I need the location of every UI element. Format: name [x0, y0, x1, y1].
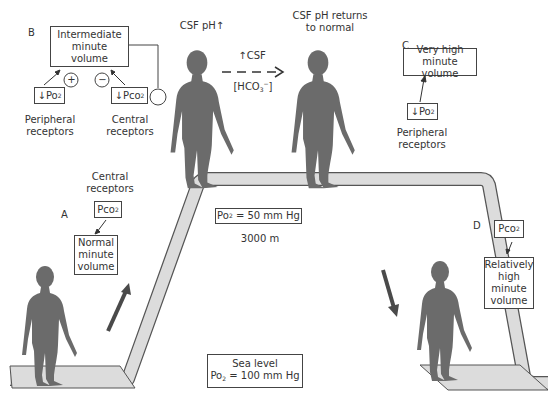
low-po2-box-c: ↓Po2: [407, 103, 438, 120]
box-line: Normal: [78, 237, 114, 249]
title-line: to normal: [280, 22, 380, 34]
hco3-text: [HCO: [233, 81, 259, 92]
b-arrows: [44, 70, 125, 85]
altitude-po2-box: Po2 = 50 mm Hg: [215, 208, 302, 224]
bracket: ]: [269, 81, 273, 92]
subscript: 3: [260, 86, 264, 93]
title-line: CSF pH returns: [280, 10, 380, 22]
subscript: 2: [115, 204, 119, 216]
box-line: minute: [72, 41, 107, 53]
peripheral-receptors-label-b: Peripheral receptors: [18, 114, 82, 138]
po2-label: Po: [210, 370, 222, 381]
label-line: receptors: [80, 183, 140, 195]
subscript: 2: [431, 106, 435, 118]
csf-ph-normal-title: CSF pH returns to normal: [280, 10, 380, 34]
label-line: Central: [80, 171, 140, 183]
central-receptors-label-a: Central receptors: [80, 171, 140, 195]
stimulus-text: Pco: [498, 223, 516, 235]
plus-sign: +: [67, 74, 76, 86]
box-line: volume: [490, 295, 527, 307]
po2-label: Po: [217, 210, 229, 222]
csf-up-label: ↑CSF: [230, 50, 274, 62]
pco2-box-a: Pco2: [94, 201, 122, 218]
intermediate-minute-volume-box: Intermediate minute volume: [50, 26, 129, 67]
subscript: 2: [141, 90, 145, 102]
relatively-high-minute-volume-box: Relatively high minute volume: [484, 257, 534, 309]
label-line: Peripheral: [390, 127, 454, 139]
box-line: minute: [78, 249, 113, 261]
pco2-box-d: Pco2: [494, 220, 524, 238]
box-line: Very high: [416, 44, 463, 56]
descent-arrow: [383, 270, 399, 317]
label-line: receptors: [390, 139, 454, 151]
box-line: Intermediate: [57, 29, 122, 41]
box-line: volume: [71, 53, 108, 65]
central-receptors-label-b: Central receptors: [100, 114, 160, 138]
csf-ph-up-title: CSF pH↑: [172, 20, 232, 32]
subscript: 2: [516, 223, 520, 235]
label-line: Central: [100, 114, 160, 126]
stimulus-text: ↓Po: [38, 90, 58, 102]
label-line: receptors: [18, 126, 82, 138]
box-line: Relatively: [484, 259, 533, 271]
po2-value: = 50 mm Hg: [233, 210, 300, 222]
stimulus-text: Pco: [97, 204, 115, 216]
peripheral-receptors-label-c: Peripheral receptors: [390, 127, 454, 151]
minus-sign: −: [98, 74, 107, 86]
sea-level-title: Sea level: [232, 358, 278, 370]
sea-level-box: Sea level Po2 = 100 mm Hg: [207, 354, 303, 388]
low-po2-box-b: ↓Po2: [34, 87, 65, 104]
person-c: [292, 50, 355, 188]
label-line: Peripheral: [18, 114, 82, 126]
stimulus-text: ↓Po: [411, 106, 431, 118]
po2-value: = 100 mm Hg: [226, 370, 300, 381]
label-line: receptors: [100, 126, 160, 138]
box-line: high: [498, 271, 520, 283]
box-line: minute volume: [404, 56, 476, 80]
panel-letter-b: B: [28, 27, 35, 38]
hco3-label: [HCO3−]: [228, 78, 278, 96]
stimulus-text: ↓Pco: [115, 90, 141, 102]
a-arrow: [95, 220, 106, 234]
csf-dashed-arrow: [222, 67, 283, 77]
person-b: [171, 50, 234, 188]
ascent-arrow: [108, 283, 131, 331]
box-line: volume: [77, 261, 114, 273]
altitude-ventilation-diagram: B Intermediate minute volume + − ↓Po2 ↓P…: [0, 0, 553, 403]
box-line: minute: [491, 283, 526, 295]
subscript: 2: [58, 90, 62, 102]
altitude-height-label: 3000 m: [225, 233, 295, 245]
panel-letter-a: A: [61, 209, 68, 220]
sea-level-po2: Po2 = 100 mm Hg: [210, 370, 299, 385]
person-d: [417, 261, 472, 381]
low-pco2-box-b: ↓Pco2: [111, 87, 148, 104]
very-high-minute-volume-box: Very high minute volume: [403, 48, 477, 76]
panel-letter-d: D: [473, 220, 481, 231]
normal-minute-volume-box: Normal minute volume: [74, 235, 118, 275]
